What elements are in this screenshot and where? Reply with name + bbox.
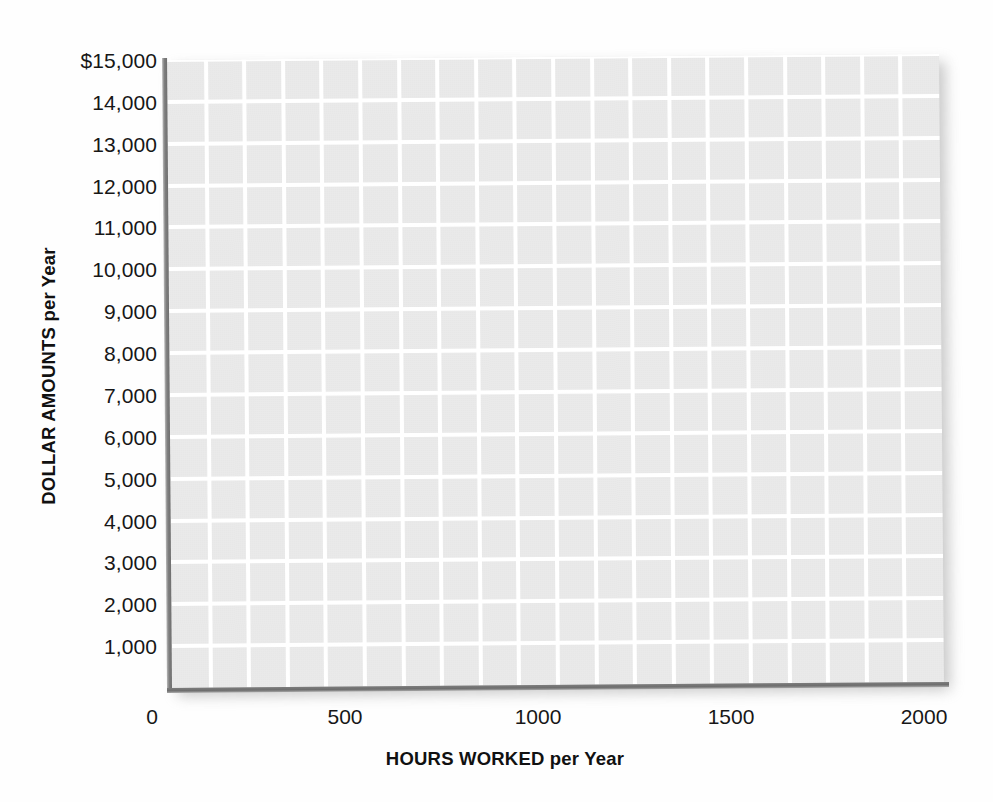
grid-line-vertical — [744, 55, 753, 683]
y-axis-tick-label: 10,000 — [92, 259, 157, 280]
grid-line-vertical — [397, 58, 406, 686]
y-axis-tick-label: 12,000 — [92, 176, 157, 197]
plot-area-wrapper — [167, 54, 944, 688]
grid-line-vertical — [319, 59, 328, 687]
grid-line-vertical — [358, 58, 367, 686]
plot-area — [167, 54, 944, 688]
y-axis-tick-label: 1,000 — [104, 636, 157, 657]
y-axis-tick-label: 8,000 — [104, 343, 157, 364]
grid-line-vertical — [860, 55, 869, 683]
x-axis-tick-label: 0 — [146, 706, 158, 727]
y-axis-tick-label: 13,000 — [92, 134, 157, 155]
y-axis-tick-label: $15,000 — [80, 50, 157, 71]
grid-line-vertical — [242, 59, 251, 687]
y-axis-tick-label: 14,000 — [92, 92, 157, 113]
y-axis-tick-label: 6,000 — [104, 427, 157, 448]
y-axis-tick-label: 7,000 — [104, 385, 157, 406]
y-axis-tick-label: 2,000 — [104, 594, 157, 615]
grid-line-vertical — [898, 54, 907, 682]
grid-line-vertical — [821, 55, 830, 683]
chart-figure: 1,0002,0003,0004,0005,0006,0007,0008,000… — [0, 0, 993, 802]
y-axis-tick-label: 3,000 — [104, 552, 157, 573]
grid-line-vertical — [435, 58, 444, 686]
y-axis-tick-label: 4,000 — [104, 511, 157, 532]
x-axis-tick-label: 1000 — [515, 706, 562, 727]
grid-line-vertical — [628, 56, 637, 684]
grid-line-vertical — [204, 60, 213, 688]
x-axis-tick-label: 2000 — [901, 706, 948, 727]
x-axis-tick-label: 500 — [327, 706, 362, 727]
y-axis-title-text: DOLLAR AMOUNTS per Year — [38, 247, 59, 504]
grid-line-vertical — [783, 55, 792, 683]
y-axis-tick-label: 11,000 — [94, 217, 157, 238]
x-axis-tick-label: 1500 — [708, 706, 755, 727]
y-axis-tick-labels: 1,0002,0003,0004,0005,0006,0007,0008,000… — [0, 0, 157, 802]
grid-line-vertical — [551, 57, 560, 685]
x-axis-title-text: HOURS WORKED per Year — [386, 748, 624, 769]
grid-line-vertical — [474, 58, 483, 686]
grid-line-vertical — [590, 57, 599, 685]
grid-line-vertical — [705, 56, 714, 684]
x-axis-title: HOURS WORKED per Year — [0, 748, 993, 770]
grid-lines — [167, 54, 944, 688]
y-axis-title: DOLLAR AMOUNTS per Year — [38, 0, 64, 242]
grid-line-vertical — [667, 56, 676, 684]
grid-line-vertical — [512, 57, 521, 685]
y-axis-tick-label: 5,000 — [104, 469, 157, 490]
x-axis-tick-labels: 0500100015002000 — [0, 706, 993, 736]
grid-line-vertical — [281, 59, 290, 687]
y-axis-tick-label: 9,000 — [104, 301, 157, 322]
